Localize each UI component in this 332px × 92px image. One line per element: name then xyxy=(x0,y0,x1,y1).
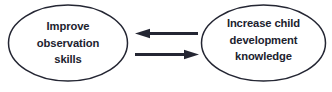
node-label-line: observation xyxy=(8,35,128,52)
arrow-left-to-right[interactable] xyxy=(135,50,199,59)
arrow-right-to-left[interactable] xyxy=(135,29,198,38)
node-label-line: knowledge xyxy=(201,48,326,65)
diagram-canvas: Improve observation skills Increase chil… xyxy=(0,0,332,92)
node-label-line: Improve xyxy=(8,18,128,35)
node-label-line: Increase child xyxy=(201,15,326,32)
node-label-improve-observation-skills: Improve observation skills xyxy=(8,18,128,68)
node-label-line: skills xyxy=(8,51,128,68)
node-label-line: development xyxy=(201,32,326,49)
node-label-increase-child-development-knowledge: Increase child development knowledge xyxy=(201,15,326,65)
